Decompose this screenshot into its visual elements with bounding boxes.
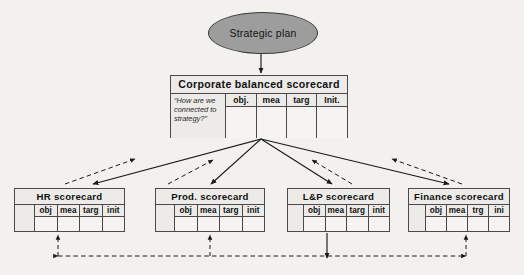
- corporate-column-header: mea: [257, 94, 286, 107]
- hr-column-initiatives[interactable]: init: [103, 205, 125, 231]
- hr-column-cell[interactable]: [35, 217, 57, 231]
- corporate-column-targets[interactable]: targ: [287, 94, 317, 138]
- finance-column-header: obj: [426, 205, 446, 217]
- finance-column-objectives[interactable]: obj: [426, 205, 447, 231]
- hr-column-cell[interactable]: [80, 217, 102, 231]
- hr-column-header: mea: [58, 205, 80, 217]
- prod-column-header: obj: [175, 205, 197, 217]
- prod-column-cell[interactable]: [175, 217, 197, 231]
- lp-column-targets[interactable]: targ: [347, 205, 369, 231]
- node-lp-scorecard[interactable]: L&P scorecard obj mea targ init: [287, 188, 390, 232]
- lp-column-initiatives[interactable]: init: [369, 205, 390, 231]
- prod-label-column: [156, 205, 175, 231]
- hr-scorecard-grid: obj mea targ init: [15, 205, 124, 231]
- finance-column-header: ini: [489, 205, 509, 217]
- lp-column-cell[interactable]: [326, 217, 347, 231]
- diagram-canvas: Strategic plan Corporate balanced scorec…: [0, 0, 524, 275]
- finance-column-targets[interactable]: trg: [468, 205, 489, 231]
- finance-scorecard-title: Finance scorecard: [409, 189, 509, 205]
- finance-column-cell[interactable]: [468, 217, 488, 231]
- node-finance-scorecard[interactable]: Finance scorecard obj mea trg ini: [408, 188, 510, 232]
- prod-scorecard-title: Prod. scorecard: [156, 189, 264, 205]
- finance-column-cell[interactable]: [426, 217, 446, 231]
- connector-corporate-to-units: [93, 139, 449, 184]
- lp-column-header: mea: [326, 205, 347, 217]
- prod-column-measures[interactable]: mea: [198, 205, 221, 231]
- lp-column-header: targ: [347, 205, 368, 217]
- prod-column-initiatives[interactable]: init: [243, 205, 265, 231]
- lp-label-column: [288, 205, 304, 231]
- hr-column-targets[interactable]: targ: [80, 205, 103, 231]
- corporate-column-cell[interactable]: [226, 107, 255, 138]
- finance-column-cell[interactable]: [489, 217, 509, 231]
- lp-scorecard-title: L&P scorecard: [288, 189, 389, 205]
- corporate-column-cell[interactable]: [287, 107, 316, 138]
- prod-column-targets[interactable]: targ: [220, 205, 243, 231]
- finance-column-header: mea: [447, 205, 467, 217]
- lp-scorecard-grid: obj mea targ init: [288, 205, 389, 231]
- finance-column-cell[interactable]: [447, 217, 467, 231]
- lp-column-header: obj: [304, 205, 325, 217]
- lp-column-cell[interactable]: [369, 217, 390, 231]
- corporate-column-objectives[interactable]: obj.: [226, 94, 256, 138]
- finance-column-measures[interactable]: mea: [447, 205, 468, 231]
- lp-column-objectives[interactable]: obj: [304, 205, 326, 231]
- corporate-column-initiatives[interactable]: Init.: [317, 94, 347, 138]
- node-strategic-plan[interactable]: Strategic plan: [208, 12, 318, 54]
- prod-column-cell[interactable]: [220, 217, 242, 231]
- prod-column-header: targ: [220, 205, 242, 217]
- node-prod-scorecard[interactable]: Prod. scorecard obj mea targ init: [155, 188, 265, 232]
- corporate-scorecard-grid: “How are we connected to strategy?” obj.…: [171, 94, 347, 138]
- hr-column-header: obj: [35, 205, 57, 217]
- lp-column-cell[interactable]: [347, 217, 368, 231]
- hr-column-objectives[interactable]: obj: [35, 205, 58, 231]
- hr-column-header: targ: [80, 205, 102, 217]
- corporate-column-header: targ: [287, 94, 316, 107]
- connector-alignment-bus: [58, 233, 466, 258]
- finance-column-header: trg: [468, 205, 488, 217]
- prod-column-cell[interactable]: [198, 217, 220, 231]
- corporate-scorecard-title: Corporate balanced scorecard: [171, 76, 347, 94]
- connector-units-feedback: [65, 159, 462, 184]
- finance-label-column: [409, 205, 426, 231]
- corporate-column-cell[interactable]: [317, 107, 347, 138]
- finance-scorecard-grid: obj mea trg ini: [409, 205, 509, 231]
- hr-scorecard-title: HR scorecard: [15, 189, 124, 205]
- lp-column-measures[interactable]: mea: [326, 205, 348, 231]
- hr-column-cell[interactable]: [103, 217, 125, 231]
- corporate-column-cell[interactable]: [257, 107, 286, 138]
- lp-column-cell[interactable]: [304, 217, 325, 231]
- prod-scorecard-grid: obj mea targ init: [156, 205, 264, 231]
- hr-column-header: init: [103, 205, 125, 217]
- hr-column-cell[interactable]: [58, 217, 80, 231]
- prod-column-header: init: [243, 205, 265, 217]
- hr-label-column: [15, 205, 35, 231]
- strategic-plan-label: Strategic plan: [229, 27, 296, 39]
- prod-column-objectives[interactable]: obj: [175, 205, 198, 231]
- corporate-column-header: obj.: [226, 94, 255, 107]
- prod-column-cell[interactable]: [243, 217, 265, 231]
- hr-column-measures[interactable]: mea: [58, 205, 81, 231]
- prod-column-header: mea: [198, 205, 220, 217]
- corporate-scorecard-question: “How are we connected to strategy?”: [171, 94, 226, 138]
- node-hr-scorecard[interactable]: HR scorecard obj mea targ init: [14, 188, 125, 232]
- finance-column-initiatives[interactable]: ini: [489, 205, 509, 231]
- node-corporate-balanced-scorecard[interactable]: Corporate balanced scorecard “How are we…: [170, 75, 348, 138]
- lp-column-header: init: [369, 205, 390, 217]
- corporate-column-header: Init.: [317, 94, 347, 107]
- corporate-column-measures[interactable]: mea: [257, 94, 287, 138]
